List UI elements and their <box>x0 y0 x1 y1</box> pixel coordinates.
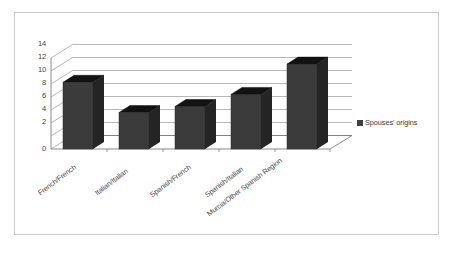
chart-container: 14 12 10 8 6 4 2 0 French/French Italian… <box>0 0 455 258</box>
y-tick-label-8: 8 <box>30 79 46 87</box>
y-tick-label-2: 2 <box>30 118 46 126</box>
y-tick-label-4: 4 <box>30 105 46 113</box>
y-tick-label-6: 6 <box>30 92 46 100</box>
y-tick-label-0: 0 <box>30 145 46 153</box>
y-tick-label-12: 12 <box>30 53 46 61</box>
square-swatch-icon <box>357 120 363 126</box>
chart-legend: Spouses' origins <box>357 118 417 127</box>
legend-entry-label: Spouses' origins <box>365 118 417 127</box>
y-tick-label-10: 10 <box>30 66 46 74</box>
y-tick-label-14: 14 <box>30 40 46 48</box>
